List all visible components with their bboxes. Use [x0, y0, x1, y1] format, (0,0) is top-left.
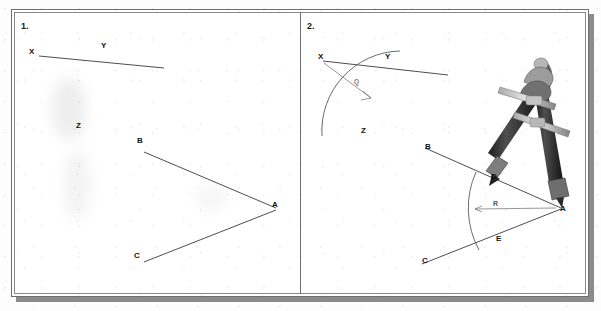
label-q-panel2: Q	[354, 78, 359, 86]
label-c-panel2: C	[422, 257, 428, 265]
label-r-panel2: R	[493, 200, 498, 208]
label-d-panel2: D	[491, 173, 497, 181]
label-b-panel2: B	[425, 143, 431, 151]
drafting-compass-illustration	[0, 0, 601, 311]
label-e-panel2: E	[496, 235, 501, 243]
label-a-panel2: A	[560, 205, 566, 213]
label-x-panel2: X	[318, 53, 323, 61]
label-z-panel2: Z	[361, 127, 366, 135]
label-y-panel2: Y	[385, 53, 390, 61]
compass-needle-leg	[535, 93, 569, 208]
figure-page: 1. X Y Z B A C 2.	[0, 0, 601, 311]
